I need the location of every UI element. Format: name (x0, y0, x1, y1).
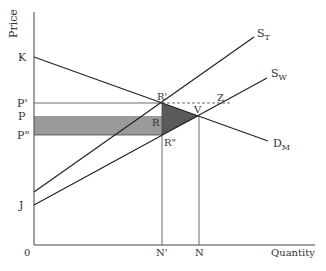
y-axis-label: Price (7, 9, 20, 38)
label-p: P (18, 110, 26, 123)
label-sw: SW (271, 67, 288, 82)
label-z: Z (217, 92, 224, 103)
supply-curve-st (34, 37, 254, 192)
label-n: N (195, 247, 204, 258)
label-p-prime: P' (17, 97, 27, 110)
economics-diagram: Price K P' P P" J 0 N' N Quantity R' R R… (0, 0, 326, 271)
x-axis-label: Quantity (271, 247, 315, 258)
label-r-prime: R' (157, 91, 167, 102)
label-j: J (18, 199, 23, 212)
label-k: K (18, 51, 27, 64)
label-origin: 0 (24, 247, 30, 258)
label-r-dprime: R" (164, 137, 176, 148)
label-n-prime: N' (156, 247, 168, 258)
label-r: R (152, 117, 160, 128)
label-p-dprime: P" (17, 129, 29, 142)
shaded-rectangle (34, 116, 162, 135)
supply-curve-sw (34, 78, 267, 205)
label-st: ST (257, 27, 271, 42)
label-v: V (193, 104, 202, 115)
label-dm: DM (273, 137, 290, 152)
